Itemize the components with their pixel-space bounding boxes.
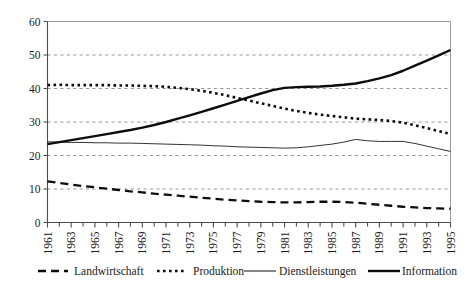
x-tick-label: 1981 xyxy=(279,231,291,254)
x-tick-label: 1965 xyxy=(89,231,101,254)
x-tick-label: 1979 xyxy=(255,231,267,254)
legend-label: Produktion xyxy=(193,265,244,277)
y-tick-label: 20 xyxy=(29,150,41,162)
x-tick-label: 1971 xyxy=(160,231,172,254)
chart-legend: LandwirtschaftProduktionDienstleistungen… xyxy=(38,265,457,278)
legend-item-landwirtschaft: Landwirtschaft xyxy=(38,265,144,277)
x-tick-label: 1987 xyxy=(350,231,362,254)
legend-item-information: Information xyxy=(368,265,457,277)
series-line-produktion xyxy=(48,85,451,134)
series-line-dienstleistungen xyxy=(48,139,451,151)
x-tick-label: 1989 xyxy=(373,231,385,254)
y-tick-label: 40 xyxy=(29,83,41,95)
x-tick-label: 1973 xyxy=(184,231,196,254)
x-axis: 1961196319651967196919711973197519771979… xyxy=(42,223,457,255)
legend-label: Dienstleistungen xyxy=(279,265,357,278)
x-tick-label: 1993 xyxy=(421,231,433,254)
x-tick-label: 1969 xyxy=(136,231,148,254)
x-tick-label: 1961 xyxy=(42,231,54,254)
y-tick-label: 50 xyxy=(29,49,41,61)
y-tick-label: 0 xyxy=(35,217,41,229)
x-tick-label: 1977 xyxy=(231,231,243,254)
legend-item-produktion: Produktion xyxy=(157,265,244,277)
x-tick-label: 1967 xyxy=(113,231,125,254)
series-group xyxy=(48,50,451,209)
line-chart-svg: 0102030405060 19611963196519671969197119… xyxy=(0,0,475,292)
chart-figure: 0102030405060 19611963196519671969197119… xyxy=(0,0,475,292)
x-tick-label: 1985 xyxy=(326,231,338,254)
series-line-information xyxy=(48,50,451,144)
legend-label: Landwirtschaft xyxy=(74,265,144,277)
series-line-landwirtschaft xyxy=(48,181,451,208)
x-tick-label: 1975 xyxy=(207,231,219,254)
x-tick-label: 1995 xyxy=(445,231,457,254)
y-tick-label: 10 xyxy=(29,183,41,195)
y-axis: 0102030405060 xyxy=(29,16,48,229)
x-tick-label: 1963 xyxy=(65,231,77,254)
legend-label: Information xyxy=(402,265,457,277)
y-tick-label: 60 xyxy=(29,16,41,28)
x-tick-label: 1983 xyxy=(302,231,314,254)
y-tick-label: 30 xyxy=(29,116,41,128)
x-tick-label: 1991 xyxy=(397,231,409,254)
legend-item-dienstleistungen: Dienstleistungen xyxy=(244,265,357,278)
